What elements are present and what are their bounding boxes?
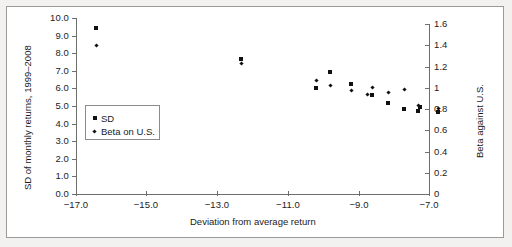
- y-tick-left: [72, 88, 77, 89]
- y-tick-right: [425, 67, 430, 68]
- y-ticklabel-right: 1.6: [434, 18, 464, 29]
- y-tick-right: [425, 130, 430, 131]
- y-ticklabel-left: 10.0: [27, 12, 69, 23]
- y-tick-left: [72, 176, 77, 177]
- data-point-sd: [94, 26, 98, 30]
- y-ticklabel-left: 8.0: [27, 47, 69, 58]
- y-tick-right: [425, 45, 430, 46]
- data-point-beta: [94, 43, 98, 47]
- y-ticklabel-right: 1.4: [434, 39, 464, 50]
- y-tick-right: [425, 24, 430, 25]
- x-axis-title: Deviation from average return: [190, 216, 316, 227]
- y-ticklabel-left: 5.0: [27, 100, 69, 111]
- data-point-beta: [349, 88, 353, 92]
- x-tick: [76, 191, 77, 196]
- legend-entry-sd: SD: [93, 113, 114, 124]
- x-ticklabel: −17.0: [46, 199, 106, 210]
- data-point-beta: [239, 61, 243, 65]
- y-tick-left: [72, 53, 77, 54]
- chart-legend: SD Beta on U.S.: [85, 105, 160, 140]
- x-tick: [359, 191, 360, 196]
- x-tick: [217, 191, 218, 196]
- y-tick-left: [72, 141, 77, 142]
- y-ticklabel-right: 1: [434, 82, 464, 93]
- figure-background: 10.0 9.0 8.0 7.0 6.0 5.0 4.0 3.0 2.0 1.0…: [0, 0, 512, 247]
- y-tick-right: [425, 173, 430, 174]
- data-point-sd: [386, 101, 390, 105]
- x-tick: [288, 191, 289, 196]
- y-ticklabel-right: 0.2: [434, 167, 464, 178]
- x-ticklabel: −9.0: [329, 199, 389, 210]
- legend-entry-beta: Beta on U.S.: [93, 126, 155, 137]
- y-tick-right: [425, 109, 430, 110]
- y-ticklabel-right: 0.4: [434, 146, 464, 157]
- y-ticklabel-left: 1.0: [27, 170, 69, 181]
- y-tick-left: [72, 159, 77, 160]
- y-ticklabel-left: 0.0: [27, 188, 69, 199]
- x-tick: [146, 191, 147, 196]
- y-axis-left-title: SD of monthly returns, 1999–2008: [22, 45, 33, 190]
- legend-label-sd: SD: [101, 113, 114, 124]
- x-ticklabel: −15.0: [116, 199, 176, 210]
- y-ticklabel-left: 9.0: [27, 30, 69, 41]
- y-tick-right: [425, 152, 430, 153]
- legend-label-beta: Beta on U.S.: [101, 126, 155, 137]
- data-point-beta: [365, 92, 369, 96]
- y-tick-left: [72, 124, 77, 125]
- data-point-beta: [370, 85, 374, 89]
- data-point-beta: [328, 83, 332, 87]
- x-ticklabel: −13.0: [187, 199, 247, 210]
- data-point-beta: [386, 90, 390, 94]
- y-ticklabel-right: 1.2: [434, 61, 464, 72]
- y-axis-right-title: Beta against U.S.: [474, 84, 485, 158]
- data-point-sd: [328, 70, 332, 74]
- y-tick-left: [72, 106, 77, 107]
- data-point-beta: [314, 78, 318, 82]
- data-point-sd: [314, 86, 318, 90]
- y-ticklabel-left: 7.0: [27, 65, 69, 76]
- y-tick-left: [72, 18, 77, 19]
- data-point-sd: [370, 93, 374, 97]
- y-ticklabel-right: 0: [434, 188, 464, 199]
- y-ticklabel-left: 3.0: [27, 135, 69, 146]
- legend-marker-diamond-icon: [92, 129, 96, 133]
- y-tick-left: [72, 36, 77, 37]
- y-ticklabel-left: 6.0: [27, 82, 69, 93]
- y-ticklabel-right: 0.6: [434, 124, 464, 135]
- x-axis-line: [76, 194, 430, 195]
- data-point-sd: [349, 82, 353, 86]
- y-ticklabel-left: 4.0: [27, 118, 69, 129]
- x-ticklabel: −11.0: [258, 199, 318, 210]
- y-ticklabel-left: 2.0: [27, 153, 69, 164]
- legend-marker-square-icon: [93, 116, 97, 120]
- x-ticklabel: −7.0: [399, 199, 459, 210]
- data-point-beta: [402, 87, 406, 91]
- data-point-sd: [416, 109, 420, 113]
- y-tick-right: [425, 88, 430, 89]
- y-tick-left: [72, 71, 77, 72]
- scatter-plot: 10.0 9.0 8.0 7.0 6.0 5.0 4.0 3.0 2.0 1.0…: [0, 0, 512, 247]
- y-tick-right: [425, 194, 430, 195]
- data-point-sd: [402, 107, 406, 111]
